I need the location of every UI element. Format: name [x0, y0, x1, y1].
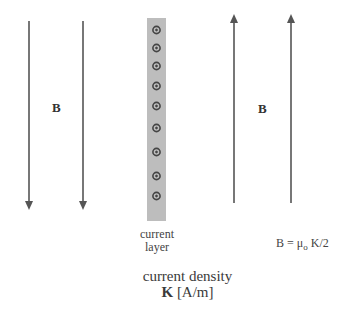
left-field-label: B — [52, 100, 61, 116]
formula-lhs: B = μ — [276, 236, 303, 250]
arrow-down-icon — [79, 21, 87, 210]
caption-line-2: layer — [126, 241, 188, 254]
k-units: [A/m] — [177, 284, 214, 300]
formula-rhs: K/2 — [308, 236, 329, 250]
k-symbol: K — [161, 284, 173, 300]
field-formula: B = μo K/2 — [276, 236, 329, 252]
arrow-down-icon — [25, 21, 33, 210]
arrow-up-icon — [287, 14, 295, 203]
current-density-label: current density K [A/m] — [130, 268, 245, 300]
arrow-up-icon — [230, 14, 238, 203]
current-layer-caption: current layer — [126, 228, 188, 254]
current-density-symbol: K [A/m] — [130, 284, 245, 300]
current-density-text: current density — [130, 268, 245, 284]
right-field-label: B — [258, 101, 267, 117]
